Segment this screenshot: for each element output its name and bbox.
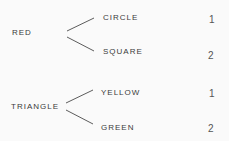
edge-triangle-green xyxy=(66,110,93,124)
branch-value-circle: 1 xyxy=(209,15,215,25)
branch-node-circle: CIRCLE xyxy=(103,13,138,22)
branch-node-square: SQUARE xyxy=(103,47,143,56)
branch-node-green: GREEN xyxy=(101,123,134,132)
root-node-triangle: TRIANGLE xyxy=(11,102,59,111)
branch-value-green: 2 xyxy=(208,124,214,134)
branch-value-yellow: 1 xyxy=(209,89,215,99)
edge-red-square xyxy=(67,37,94,51)
root-node-red: RED xyxy=(12,28,32,37)
branch-value-square: 2 xyxy=(208,51,214,61)
edge-triangle-yellow xyxy=(66,90,93,103)
branch-node-yellow: YELLOW xyxy=(101,88,140,97)
edge-red-circle xyxy=(67,18,94,31)
